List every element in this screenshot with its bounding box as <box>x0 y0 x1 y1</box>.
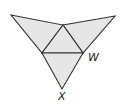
bottom-face <box>42 53 83 89</box>
pyramid-net-diagram: W X <box>0 0 120 104</box>
vertex-label-x: X <box>58 91 66 102</box>
vertex-label-w: W <box>88 52 99 63</box>
